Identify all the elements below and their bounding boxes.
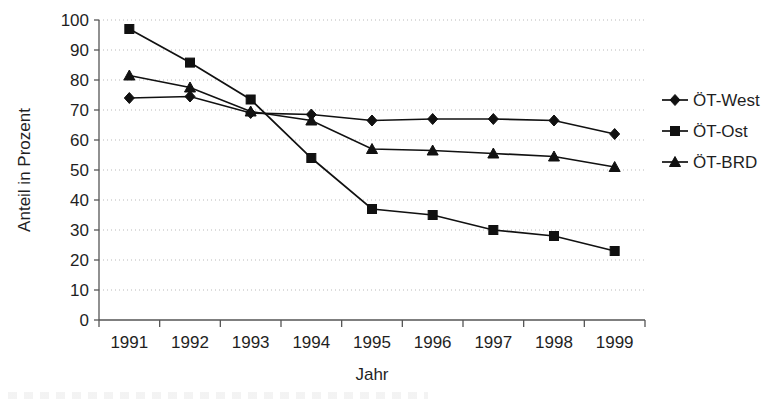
y-tick-label: 20 (70, 251, 89, 270)
data-point--t-ost (428, 211, 437, 220)
chart-figure: 0102030405060708090100199119921993199419… (0, 0, 775, 400)
data-point--t-west (428, 114, 438, 125)
data-point--t-west (367, 115, 377, 126)
x-tick-label: 1995 (353, 333, 391, 352)
data-point--t-ost (307, 154, 316, 163)
y-tick-label: 80 (70, 71, 89, 90)
x-axis-title: Jahr (355, 365, 388, 384)
y-tick-label: 100 (61, 11, 89, 30)
page-scan-artifact (8, 392, 428, 399)
x-tick-label: 1997 (474, 333, 512, 352)
legend-label: ÖT-Ost (693, 122, 748, 141)
data-point--t-west (488, 114, 498, 125)
legend-label: ÖT-West (693, 91, 760, 110)
x-tick-label: 1993 (232, 333, 270, 352)
data-point--t-west (549, 115, 559, 126)
data-point--t-west (124, 93, 134, 104)
data-point--t-brd (124, 70, 135, 80)
line-chart-canvas: 0102030405060708090100199119921993199419… (0, 0, 775, 400)
y-tick-label: 30 (70, 221, 89, 240)
y-axis-title: Anteil in Prozent (15, 108, 34, 232)
x-tick-label: 1992 (171, 333, 209, 352)
data-point--t-ost (368, 205, 377, 214)
y-tick-label: 0 (80, 311, 89, 330)
data-point--t-ost (550, 232, 559, 241)
x-tick-label: 1994 (292, 333, 330, 352)
x-tick-label: 1999 (596, 333, 634, 352)
y-tick-label: 40 (70, 191, 89, 210)
legend-marker-diamond (670, 95, 680, 106)
y-tick-label: 10 (70, 281, 89, 300)
legend-item--t-west[interactable]: ÖT-West (662, 91, 760, 110)
data-point--t-ost (125, 25, 134, 34)
data-point--t-ost (489, 226, 498, 235)
y-tick-label: 90 (70, 41, 89, 60)
data-point--t-ost (186, 58, 195, 67)
data-point--t-west (610, 129, 620, 140)
x-tick-label: 1998 (535, 333, 573, 352)
data-point--t-ost (246, 95, 255, 104)
y-tick-label: 50 (70, 161, 89, 180)
data-point--t-ost (610, 247, 619, 256)
legend-label: ÖT-BRD (693, 153, 757, 172)
x-tick-label: 1996 (414, 333, 452, 352)
y-tick-label: 70 (70, 101, 89, 120)
legend-marker-square (671, 127, 680, 136)
x-tick-label: 1991 (110, 333, 148, 352)
legend-item--t-brd[interactable]: ÖT-BRD (662, 153, 757, 172)
data-point--t-west (185, 91, 195, 102)
legend-item--t-ost[interactable]: ÖT-Ost (662, 122, 748, 141)
y-tick-label: 60 (70, 131, 89, 150)
